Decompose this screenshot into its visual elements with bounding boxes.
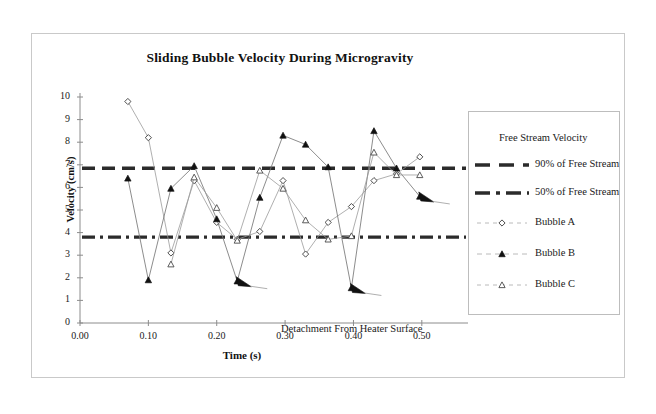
data-point xyxy=(280,132,286,138)
legend-sample-open-diamond-icon xyxy=(473,212,531,234)
y-tick-label: 2 xyxy=(48,271,70,282)
legend-sample-dashed-thick-icon xyxy=(473,154,531,176)
data-point xyxy=(214,205,220,211)
y-tick-label: 0 xyxy=(48,316,70,327)
x-tick-label: 0.50 xyxy=(402,330,442,341)
legend-item-90-of-free-stream[interactable]: 90% of Free Stream xyxy=(469,154,621,176)
detachment-leader-line xyxy=(364,293,381,296)
data-point xyxy=(145,277,151,283)
legend-label: Bubble C xyxy=(535,278,575,289)
detachment-leader-line xyxy=(250,286,267,289)
y-tick-label: 6 xyxy=(48,180,70,191)
detachment-marker xyxy=(236,277,251,287)
data-point xyxy=(191,163,197,169)
x-tick-label: 0.40 xyxy=(333,330,373,341)
legend-label: Bubble A xyxy=(535,216,575,227)
legend-item-bubble-c[interactable]: Bubble C xyxy=(469,274,621,296)
legend-item-bubble-b[interactable]: Bubble B xyxy=(469,243,621,265)
legend-label: Bubble B xyxy=(535,247,575,258)
data-point xyxy=(125,98,131,104)
legend-label: 90% of Free Stream xyxy=(535,158,619,169)
legend-title: Free Stream Velocity xyxy=(499,132,587,143)
legend-label: 50% of Free Stream xyxy=(535,186,619,197)
data-point xyxy=(303,217,309,223)
y-tick-label: 5 xyxy=(48,203,70,214)
y-tick-label: 10 xyxy=(48,90,70,101)
data-point xyxy=(257,194,263,200)
data-point xyxy=(302,141,308,147)
y-tick-label: 9 xyxy=(48,113,70,124)
data-point xyxy=(325,219,331,225)
data-point xyxy=(145,135,151,141)
legend-sample-dash-dot-thick-icon xyxy=(473,182,531,204)
data-point xyxy=(257,228,263,234)
y-tick-label: 1 xyxy=(48,293,70,304)
data-point xyxy=(280,178,286,184)
detachment-leader-line xyxy=(433,201,450,204)
x-tick-label: 0.10 xyxy=(128,330,168,341)
figure-frame: Sliding Bubble Velocity During Micrograv… xyxy=(31,33,625,378)
data-point xyxy=(303,251,309,257)
detachment-marker xyxy=(419,192,434,202)
detachment-marker xyxy=(350,283,365,293)
y-tick-label: 8 xyxy=(48,135,70,146)
y-tick-label: 4 xyxy=(48,226,70,237)
y-tick-label: 7 xyxy=(48,158,70,169)
x-tick-label: 0.20 xyxy=(197,330,237,341)
x-tick-label: 0.30 xyxy=(265,330,305,341)
legend: Free Stream Velocity 90% of Free Stream5… xyxy=(468,111,620,315)
legend-item-50-of-free-stream[interactable]: 50% of Free Stream xyxy=(469,182,621,204)
data-point xyxy=(257,167,263,173)
axes xyxy=(80,93,468,323)
legend-item-bubble-a[interactable]: Bubble A xyxy=(469,212,621,234)
x-tick-label: 0.00 xyxy=(60,330,100,341)
series-bubble-a xyxy=(125,98,423,257)
legend-sample-open-triangle-icon xyxy=(473,274,531,296)
data-point xyxy=(371,128,377,134)
legend-sample-filled-triangle-icon xyxy=(473,243,531,265)
data-point xyxy=(125,175,131,181)
data-point xyxy=(371,149,377,155)
data-point xyxy=(191,174,197,180)
data-point xyxy=(417,154,423,160)
data-point xyxy=(168,261,174,267)
y-tick-label: 3 xyxy=(48,248,70,259)
